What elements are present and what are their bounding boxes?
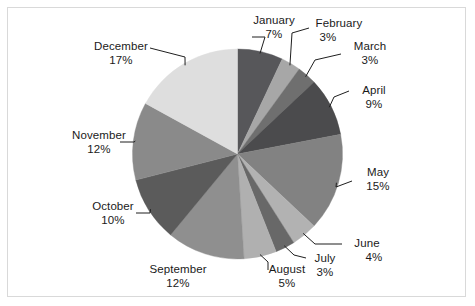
pie-label-august-name: August — [262, 263, 312, 277]
pie-label-november: November 12% — [55, 129, 143, 156]
pie-label-december-name: December — [77, 40, 165, 54]
pie-label-october: October 10% — [78, 200, 148, 227]
pie-label-october-value: 10% — [78, 214, 148, 228]
pie-label-june: June 4% — [343, 237, 391, 264]
leader-line-april — [329, 91, 349, 107]
pie-label-september-value: 12% — [137, 277, 219, 291]
chart-plot-area: January 7% February 3% March 3% April 9%… — [0, 0, 475, 306]
leader-line-june — [303, 233, 342, 244]
pie-label-april-value: 9% — [348, 98, 400, 112]
pie-slice-group — [133, 49, 343, 259]
pie-label-may-name: May — [352, 166, 404, 180]
pie-label-september-name: September — [137, 263, 219, 277]
pie-label-december-value: 17% — [77, 54, 165, 68]
pie-label-september: September 12% — [137, 263, 219, 290]
pie-label-may: May 15% — [352, 166, 404, 193]
pie-label-january-name: January — [239, 14, 309, 28]
pie-label-december: December 17% — [77, 40, 165, 67]
pie-label-march-value: 3% — [340, 54, 400, 68]
pie-label-june-name: June — [343, 237, 391, 251]
pie-label-august: August 5% — [262, 263, 312, 290]
pie-label-march: March 3% — [340, 40, 400, 67]
leader-line-july — [284, 246, 306, 258]
pie-label-february-name: February — [302, 17, 376, 31]
pie-label-june-value: 4% — [357, 251, 391, 265]
leader-line-march — [306, 54, 341, 77]
pie-label-may-value: 15% — [352, 180, 404, 194]
pie-label-october-name: October — [78, 200, 148, 214]
pie-label-january: January 7% — [239, 14, 309, 41]
pie-label-november-value: 12% — [55, 143, 143, 157]
pie-label-august-value: 5% — [262, 277, 312, 291]
pie-label-april: April 9% — [348, 84, 400, 111]
pie-label-january-value: 7% — [239, 28, 309, 42]
pie-label-november-name: November — [55, 129, 143, 143]
pie-label-march-name: March — [340, 40, 400, 54]
pie-label-april-name: April — [348, 84, 400, 98]
